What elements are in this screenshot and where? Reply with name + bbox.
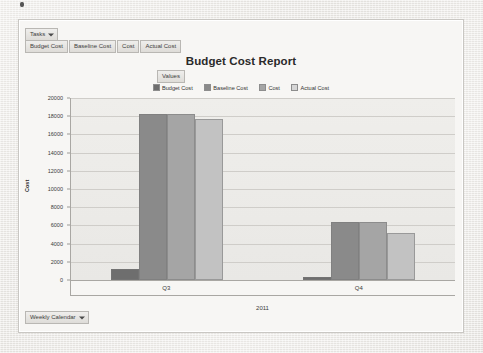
x-axis-categories: Q3Q4 xyxy=(70,281,455,295)
bar-group xyxy=(263,98,455,280)
x-axis-category-label: Q3 xyxy=(70,281,263,295)
y-axis-tick-mark xyxy=(67,98,70,99)
legend-label-baseline-cost: Baseline Cost xyxy=(213,85,248,91)
report-panel: Tasks Budget CostBaseline CostCostActual… xyxy=(18,19,464,333)
y-axis-tick-label: 2000 xyxy=(51,259,63,265)
y-axis-tick-label: 4000 xyxy=(51,241,63,247)
field-button-baseline-cost[interactable]: Baseline Cost xyxy=(69,40,116,53)
y-axis-tick-mark xyxy=(67,116,70,117)
weekly-calendar-label: Weekly Calendar xyxy=(30,314,76,320)
y-axis-tick-mark xyxy=(67,207,70,208)
legend-swatch-cost xyxy=(259,84,266,91)
y-axis-tick-label: 16000 xyxy=(48,131,63,137)
bar-cost-q4[interactable] xyxy=(359,222,387,280)
y-axis-tick-mark xyxy=(67,170,70,171)
chevron-down-icon xyxy=(48,33,54,36)
y-axis-tick-mark xyxy=(67,261,70,262)
legend-swatch-actual-cost xyxy=(291,84,298,91)
bar-budget-cost-q3[interactable] xyxy=(111,269,139,280)
legend-label-budget-cost: Budget Cost xyxy=(162,85,193,91)
field-buttons-row: Budget CostBaseline CostCostActual Cost xyxy=(25,37,182,55)
bar-actual-cost-q4[interactable] xyxy=(387,233,415,281)
legend-swatch-baseline-cost xyxy=(204,84,211,91)
x-axis-title: 2011 xyxy=(256,303,269,311)
y-axis-tick-label: 10000 xyxy=(48,186,63,192)
y-axis-tick-mark xyxy=(67,152,70,153)
calendar-dropdown-row: Weekly Calendar xyxy=(25,308,89,326)
legend-item-actual-cost[interactable]: Actual Cost xyxy=(291,84,329,91)
x-axis-separator-tick xyxy=(70,281,71,295)
bar-group xyxy=(71,98,263,280)
y-axis-tick-mark xyxy=(67,243,70,244)
legend-label-actual-cost: Actual Cost xyxy=(300,85,329,91)
chart-title: Budget Cost Report xyxy=(19,55,463,67)
legend-label-cost: Cost xyxy=(268,85,280,91)
y-axis-tick-label: 20000 xyxy=(48,95,63,101)
legend-item-budget-cost[interactable]: Budget Cost xyxy=(153,84,193,91)
y-axis-tick-mark xyxy=(67,225,70,226)
y-axis-tick-label: 18000 xyxy=(48,113,63,119)
bar-cost-q3[interactable] xyxy=(167,114,195,280)
y-axis-tick-mark xyxy=(67,134,70,135)
y-axis-tick-label: 14000 xyxy=(48,150,63,156)
chart-plot-area: Cost 02000400060008000100001200014000160… xyxy=(19,98,463,303)
plot-canvas xyxy=(70,98,455,281)
y-axis-tick-mark xyxy=(67,189,70,190)
values-chip[interactable]: Values xyxy=(157,70,185,83)
field-button-budget-cost[interactable]: Budget Cost xyxy=(25,40,68,53)
field-button-actual-cost[interactable]: Actual Cost xyxy=(140,40,181,53)
legend-item-cost[interactable]: Cost xyxy=(259,84,280,91)
bar-budget-cost-q4[interactable] xyxy=(303,277,331,280)
legend-item-baseline-cost[interactable]: Baseline Cost xyxy=(204,84,248,91)
y-axis-tick-label: 8000 xyxy=(51,204,63,210)
y-axis-tick-label: 0 xyxy=(60,277,63,283)
y-axis-tick-mark xyxy=(67,280,70,281)
y-axis-tick-label: 12000 xyxy=(48,168,63,174)
bar-actual-cost-q3[interactable] xyxy=(195,119,223,280)
y-axis-tick-label: 6000 xyxy=(51,222,63,228)
bar-baseline-cost-q3[interactable] xyxy=(139,114,167,280)
x-axis-year-row: 2011 xyxy=(70,295,455,308)
y-axis-ticks: 0200040006000800010000120001400016000180… xyxy=(29,98,65,280)
chart-legend: Budget Cost Baseline Cost Cost Actual Co… xyxy=(19,84,463,91)
bar-baseline-cost-q4[interactable] xyxy=(331,222,359,280)
x-axis-category-label: Q4 xyxy=(263,281,456,295)
field-button-cost[interactable]: Cost xyxy=(117,40,139,53)
page-artifact-speck xyxy=(20,2,24,7)
chevron-down-icon xyxy=(79,316,85,319)
weekly-calendar-dropdown[interactable]: Weekly Calendar xyxy=(25,311,89,324)
bar-groups xyxy=(71,98,455,280)
legend-swatch-budget-cost xyxy=(153,84,160,91)
